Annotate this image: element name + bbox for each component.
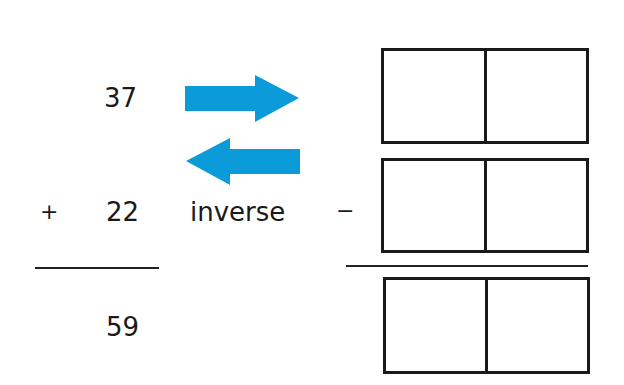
ones-input-2[interactable] bbox=[484, 161, 587, 250]
tens-input-2[interactable] bbox=[384, 161, 484, 250]
addend-1: 37 bbox=[104, 85, 137, 111]
arrow-right-icon bbox=[185, 75, 299, 122]
plus-sign: + bbox=[40, 201, 58, 223]
subtraction-result-line bbox=[346, 265, 588, 267]
inverse-label: inverse bbox=[190, 199, 285, 225]
addend-2: 22 bbox=[106, 199, 139, 225]
tens-input-3[interactable] bbox=[386, 280, 485, 371]
arrow-left-icon bbox=[186, 138, 300, 185]
ones-input-1[interactable] bbox=[484, 51, 587, 141]
answer-row-2 bbox=[381, 158, 589, 253]
answer-row-3 bbox=[383, 277, 590, 374]
tens-input-1[interactable] bbox=[384, 51, 484, 141]
answer-row-1 bbox=[381, 48, 589, 144]
minus-sign: − bbox=[336, 200, 354, 222]
addition-sum-line bbox=[35, 267, 159, 269]
ones-input-3[interactable] bbox=[485, 280, 587, 371]
sum: 59 bbox=[106, 314, 139, 340]
